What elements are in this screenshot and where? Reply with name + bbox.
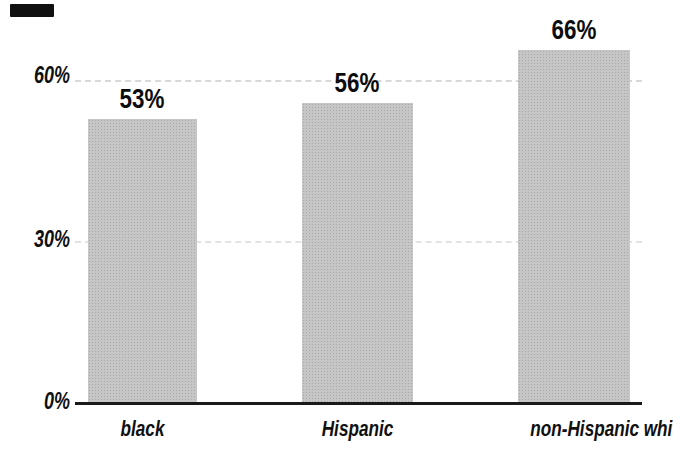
bar-value-label-black: 53%	[120, 85, 165, 113]
y-axis-tick-0: 0%	[22, 389, 70, 413]
bar-non-hispanic-white	[518, 50, 630, 403]
y-axis-tick-30: 30%	[22, 227, 70, 251]
bar-chart-figure: 60% 30% 0% 53% 56% 66% black Hispanic no…	[0, 0, 673, 458]
bar-value-label-hispanic: 56%	[335, 69, 380, 97]
x-axis-label-non-hispanic-white: non-Hispanic white	[530, 416, 617, 442]
bar-value-label-non-hispanic-white: 66%	[552, 16, 597, 44]
bar-black	[88, 119, 197, 403]
y-axis-tick-60: 60%	[22, 63, 70, 87]
plot-area: 60% 30% 0% 53% 56% 66% black Hispanic no…	[0, 0, 673, 458]
bar-group-hispanic: 56%	[302, 69, 413, 403]
bar-group-non-hispanic-white: 66%	[518, 16, 630, 403]
x-axis-label-hispanic: Hispanic	[314, 416, 401, 442]
bar-hispanic	[302, 103, 413, 403]
x-axis-label-black: black	[100, 416, 185, 442]
bar-group-black: 53%	[88, 85, 197, 403]
x-axis-baseline	[75, 402, 642, 405]
